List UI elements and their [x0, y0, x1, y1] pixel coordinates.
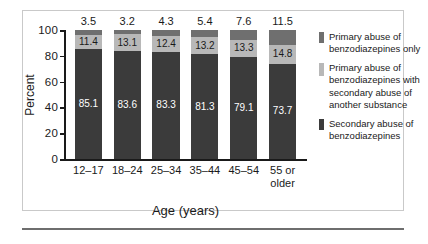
legend-label: Primary abuse of benzodiazepines with se… — [329, 62, 428, 111]
segment-value-above-bar: 7.6 — [230, 15, 257, 27]
y-axis-tick-label: 80 — [45, 50, 58, 62]
legend-swatch — [319, 119, 324, 130]
y-axis-tick — [60, 159, 64, 161]
y-axis-title: Percent — [23, 74, 37, 115]
bar-segment-bottom[interactable]: 73.7 — [269, 64, 296, 159]
bar-segment-middle[interactable]: 13.3 — [230, 40, 257, 57]
x-axis-tick-label: 35–44 — [185, 164, 224, 177]
legend-item[interactable]: Primary abuse of benzodiazepines only — [319, 31, 428, 55]
y-axis-tick — [60, 107, 64, 109]
footer-rule — [22, 228, 404, 230]
bar-segment-top[interactable] — [230, 30, 257, 40]
bar-segment-middle[interactable]: 14.8 — [269, 45, 296, 64]
bar-segment-middle[interactable]: 12.4 — [152, 36, 179, 52]
segment-value-above-bar: 4.3 — [152, 15, 179, 27]
bar-group[interactable]: 79.113.37.645–54 — [230, 30, 257, 159]
segment-value-above-bar: 3.2 — [114, 15, 141, 27]
bar-segment-middle[interactable]: 11.4 — [75, 35, 102, 50]
bar-segment-bottom[interactable]: 83.3 — [152, 52, 179, 159]
legend-item[interactable]: Primary abuse of benzodiazepines with se… — [319, 62, 428, 111]
bar-segment-top[interactable] — [269, 30, 296, 45]
bar-group[interactable]: 81.313.25.435–44 — [191, 30, 218, 159]
legend-swatch — [319, 32, 324, 43]
x-axis-line — [64, 159, 307, 161]
bar-segment-top[interactable] — [191, 30, 218, 37]
bar-segment-bottom[interactable]: 83.6 — [114, 51, 141, 159]
y-axis-tick — [60, 30, 64, 32]
legend-item[interactable]: Secondary abuse of benzodiazepines — [319, 118, 428, 142]
plot-area: Percent 020406080100 85.111.43.512–1783.… — [64, 30, 297, 159]
segment-value-above-bar: 3.5 — [75, 15, 102, 27]
y-axis-tick-label: 0 — [51, 153, 58, 165]
x-axis-tick-label: 25–34 — [146, 164, 185, 177]
x-axis-tick-label: 12–17 — [69, 164, 108, 177]
segment-value-above-bar: 5.4 — [191, 15, 218, 27]
legend-label: Primary abuse of benzodiazepines only — [329, 31, 428, 55]
bar-group[interactable]: 73.714.811.555 orolder — [269, 30, 296, 159]
legend-swatch — [319, 63, 324, 76]
bar-segment-bottom[interactable]: 85.1 — [75, 49, 102, 159]
y-axis-tick-label: 60 — [45, 76, 58, 88]
x-axis-tick-label: 18–24 — [108, 164, 147, 177]
bar-segment-top[interactable] — [75, 30, 102, 35]
y-axis-tick — [60, 133, 64, 135]
bar-segment-bottom[interactable]: 79.1 — [230, 57, 257, 159]
legend-label: Secondary abuse of benzodiazepines — [329, 118, 428, 142]
y-axis-tick — [60, 56, 64, 58]
bar-group[interactable]: 83.312.44.325–34 — [152, 30, 179, 159]
bar-segment-bottom[interactable]: 81.3 — [191, 54, 218, 159]
bar-segment-middle[interactable]: 13.1 — [114, 34, 141, 51]
chart-figure: Percent 020406080100 85.111.43.512–1783.… — [22, 10, 404, 211]
bar-segment-middle[interactable]: 13.2 — [191, 37, 218, 54]
y-axis-tick — [60, 82, 64, 84]
y-axis-line — [64, 30, 66, 159]
y-axis-tick-label: 20 — [45, 127, 58, 139]
bar-group[interactable]: 83.613.13.218–24 — [114, 30, 141, 159]
bar-group[interactable]: 85.111.43.512–17 — [75, 30, 102, 159]
segment-value-above-bar: 11.5 — [269, 15, 296, 27]
x-axis-tick-label: 55 orolder — [263, 164, 302, 189]
bar-segment-top[interactable] — [152, 30, 179, 36]
y-axis-tick-label: 100 — [38, 24, 58, 36]
x-axis-tick-label: 45–54 — [224, 164, 263, 177]
y-axis-tick-label: 40 — [45, 101, 58, 113]
bar-segment-top[interactable] — [114, 30, 141, 34]
chart-legend: Primary abuse of benzodiazepines onlyPri… — [319, 31, 428, 149]
x-axis-title: Age (years) — [64, 203, 307, 218]
